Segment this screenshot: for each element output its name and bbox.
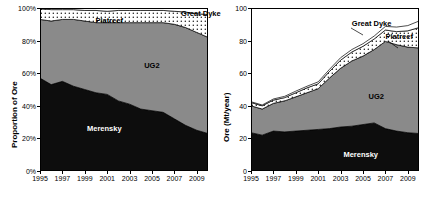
x-tick-mark (40, 171, 41, 174)
x-tick-mark (296, 171, 297, 174)
y-tick-mark (248, 41, 251, 42)
y-tick-mark (37, 8, 40, 9)
y-tick-label: 100% (18, 5, 36, 12)
x-tick-mark (85, 171, 86, 174)
y-tick-label: 0% (26, 168, 36, 175)
x-tick-label: 1999 (288, 175, 304, 182)
x-tick-mark (363, 171, 364, 174)
y-tick-mark (248, 8, 251, 9)
y-tick-label: 60 (239, 70, 247, 77)
y-tick-mark (37, 106, 40, 107)
series-label-merensky: Merensky (343, 151, 378, 159)
y-tick-label: 100 (235, 5, 247, 12)
x-tick-label: 2003 (333, 175, 349, 182)
x-tick-label: 2005 (144, 175, 160, 182)
x-tick-mark (341, 171, 342, 174)
chart-panel-proportion: 0%20%40%60%80%100% 199519971999200120032… (0, 0, 211, 206)
x-tick-label: 1995 (32, 175, 48, 182)
x-tick-label: 1997 (266, 175, 282, 182)
x-tick-label: 1997 (55, 175, 71, 182)
x-tick-mark (273, 171, 274, 174)
x-tick-mark (318, 171, 319, 174)
x-tick-label: 1999 (77, 175, 93, 182)
x-tick-label: 1995 (243, 175, 259, 182)
x-tick-label: 2005 (355, 175, 371, 182)
y-tick-label: 20 (239, 135, 247, 142)
y-axis-title-proportion: Proportion of Ore (10, 81, 19, 148)
x-tick-mark (251, 171, 252, 174)
x-tick-label: 2009 (189, 175, 205, 182)
series-label-great-dyke: Great Dyke (352, 20, 392, 28)
plot-area-proportion: 0%20%40%60%80%100% 199519971999200120032… (40, 8, 208, 171)
axis-frame-proportion (40, 8, 208, 171)
x-tick-mark (107, 171, 108, 174)
x-tick-mark (152, 171, 153, 174)
y-tick-mark (248, 73, 251, 74)
y-tick-mark (37, 138, 40, 139)
figure-root: 0%20%40%60%80%100% 199519971999200120032… (0, 0, 423, 206)
x-tick-label: 2003 (122, 175, 138, 182)
x-tick-mark (408, 171, 409, 174)
y-tick-mark (37, 73, 40, 74)
y-tick-label: 20% (22, 135, 36, 142)
x-tick-mark (174, 171, 175, 174)
y-tick-mark (248, 106, 251, 107)
x-tick-label: 2007 (167, 175, 183, 182)
y-tick-label: 80 (239, 37, 247, 44)
x-tick-mark (62, 171, 63, 174)
y-tick-label: 40% (22, 102, 36, 109)
y-axis-title-absolute: Ore (Mt/year) (222, 93, 231, 142)
x-tick-label: 2009 (400, 175, 416, 182)
x-tick-mark (197, 171, 198, 174)
chart-panel-absolute: 020406080100 199519971999200120032005200… (212, 0, 423, 206)
y-tick-mark (248, 138, 251, 139)
series-label-platreef: Platreef (385, 33, 413, 41)
x-tick-mark (130, 171, 131, 174)
series-label-platreef: Platreef (95, 17, 123, 25)
y-tick-label: 40 (239, 102, 247, 109)
x-tick-label: 2001 (99, 175, 115, 182)
x-tick-label: 2001 (310, 175, 326, 182)
y-tick-label: 60% (22, 70, 36, 77)
series-label-merensky: Merensky (87, 125, 122, 133)
plot-area-absolute: 020406080100 199519971999200120032005200… (251, 8, 419, 171)
y-tick-label: 80% (22, 37, 36, 44)
x-tick-mark (385, 171, 386, 174)
series-label-ug2: UG2 (144, 62, 159, 70)
series-label-ug2: UG2 (369, 93, 384, 101)
y-tick-label: 0 (243, 168, 247, 175)
x-tick-label: 2007 (378, 175, 394, 182)
y-tick-mark (37, 41, 40, 42)
